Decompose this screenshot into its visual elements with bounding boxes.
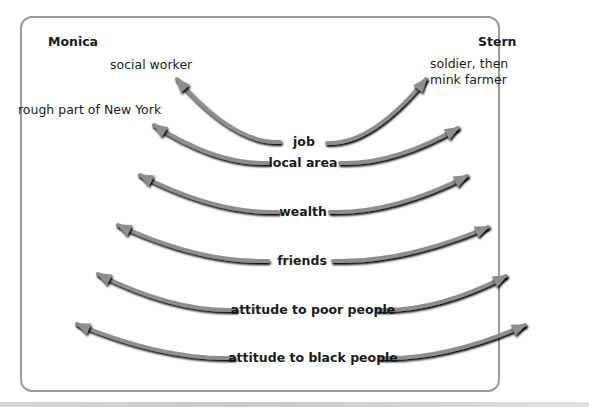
right-arrow (380, 325, 525, 358)
arrowhead-icon (152, 124, 168, 137)
right-job-value-line2: mink farmer (430, 72, 507, 87)
left-local-area-value: rough part of New York (18, 102, 161, 117)
right-arrow (333, 227, 488, 261)
arrowhead-icon (492, 275, 508, 287)
arrowhead-icon (474, 226, 490, 237)
row-label-attitude-black: attitude to black people (228, 350, 398, 365)
row-label-friends: friends (277, 253, 327, 268)
arrowhead-icon (96, 273, 112, 285)
right-job-value-line1: soldier, then (430, 56, 508, 71)
right-arrow (330, 176, 467, 212)
row-label-attitude-poor: attitude to poor people (231, 302, 396, 317)
arrowhead-icon (511, 324, 527, 336)
left-arrow (140, 175, 278, 212)
left-arrow (77, 324, 234, 358)
left-arrow (177, 79, 280, 142)
row-label-job: job (293, 134, 315, 149)
arrowhead-icon (453, 175, 469, 187)
arrowhead-icon (75, 323, 91, 334)
left-arrow (154, 125, 268, 163)
arrowhead-icon (116, 224, 132, 236)
left-arrow (118, 225, 268, 261)
left-arrow (98, 274, 236, 310)
arrowhead-icon (444, 127, 460, 140)
left-person-name: Monica (48, 34, 98, 49)
row-label-wealth: wealth (279, 204, 327, 219)
right-arrow (340, 128, 458, 163)
right-arrow (327, 79, 426, 143)
row-label-local-area: local area (269, 155, 338, 170)
right-person-name: Stern (478, 34, 517, 49)
arrowhead-icon (138, 174, 154, 186)
right-arrow (378, 276, 506, 310)
left-job-value: social worker (110, 57, 192, 72)
